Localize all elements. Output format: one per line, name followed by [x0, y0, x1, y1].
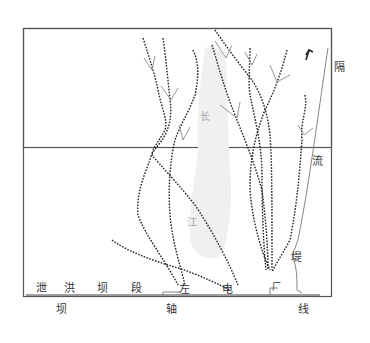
label-powerhouse-3: 厂 — [272, 283, 281, 292]
trace-7 — [250, 50, 287, 270]
label-spillway-1: 泄 — [36, 283, 47, 294]
label-river-2: 江 — [187, 218, 197, 228]
label-spillway-2: 洪 — [64, 283, 75, 294]
label-river-1: 长 — [200, 112, 210, 122]
label-dam-axis-3: 线 — [298, 304, 309, 315]
north-arrow-icon — [306, 50, 313, 60]
trace-3 — [169, 50, 198, 285]
label-powerhouse-2: 电 — [222, 284, 233, 295]
label-isolation-3: 堤 — [291, 252, 302, 263]
label-spillway-3: 坝 — [97, 283, 108, 294]
label-isolation-2: 流 — [312, 156, 323, 167]
label-spillway-4: 段 — [131, 283, 142, 294]
label-dam-axis-1: 坝 — [56, 304, 67, 315]
frame-border — [24, 29, 332, 297]
label-powerhouse-1: 左 — [179, 284, 190, 295]
label-isolation-1: 隔 — [334, 62, 345, 73]
trace-8 — [272, 95, 306, 272]
label-dam-axis-2: 轴 — [166, 304, 177, 315]
